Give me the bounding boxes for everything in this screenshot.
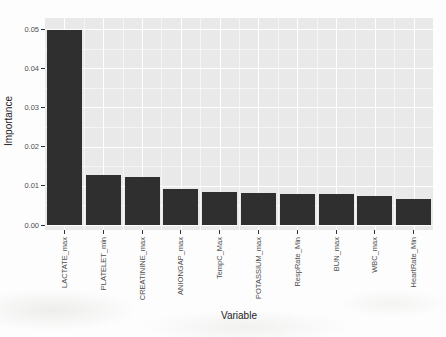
x-tick-mark: [336, 230, 337, 234]
x-tick-mark: [64, 230, 65, 234]
plot-panel: [45, 18, 433, 230]
x-tick-mark: [103, 230, 104, 234]
bar-POTASSIUM_max: [241, 193, 276, 225]
y-tick-label: 0.00: [0, 220, 39, 231]
x-tick-label: WBC_max: [369, 237, 380, 317]
x-tick-mark: [374, 230, 375, 234]
gridline-minor-vertical: [317, 18, 318, 230]
x-tick-label: LACTATE_max: [59, 237, 70, 317]
gridline-minor-vertical: [278, 18, 279, 230]
bar-BUN_max: [319, 194, 354, 225]
x-tick-label: ANIONGAP_max: [175, 237, 186, 317]
variable-importance-bar-chart: Importance Variable 0.000.010.020.030.04…: [0, 0, 446, 337]
y-tick-label: 0.04: [0, 63, 39, 74]
x-tick-label: RespRate_Min: [292, 237, 303, 317]
x-tick-label: POTASSIUM_max: [253, 237, 264, 317]
x-tick-mark: [142, 230, 143, 234]
y-tick-mark: [41, 107, 45, 108]
x-tick-label: HeartRate_Min: [408, 237, 419, 317]
y-tick-label: 0.05: [0, 24, 39, 35]
bar-ANIONGAP_max: [163, 189, 198, 225]
y-tick-mark: [41, 29, 45, 30]
bar-LACTATE_max: [47, 30, 82, 225]
bar-HeartRate_Min: [396, 199, 431, 225]
y-tick-mark: [41, 185, 45, 186]
x-tick-mark: [297, 230, 298, 234]
bar-PLATELET_min: [86, 175, 121, 225]
gridline-minor-vertical: [123, 18, 124, 230]
x-tick-label: CREATININE_max: [137, 237, 148, 317]
x-tick-label: PLATELET_min: [98, 237, 109, 317]
gridline-minor-vertical: [161, 18, 162, 230]
bar-WBC_max: [357, 196, 392, 225]
y-tick-mark: [41, 68, 45, 69]
bar-CREATININE_max: [125, 177, 160, 225]
x-tick-mark: [219, 230, 220, 234]
gridline-minor-vertical: [394, 18, 395, 230]
gridline-minor-vertical: [200, 18, 201, 230]
x-tick-mark: [413, 230, 414, 234]
x-tick-label: BUN_max: [331, 237, 342, 317]
gridline-minor-vertical: [84, 18, 85, 230]
y-tick-label: 0.01: [0, 180, 39, 191]
x-tick-mark: [258, 230, 259, 234]
bar-RespRate_Min: [280, 194, 315, 225]
x-tick-label: TempC_Max: [214, 237, 225, 317]
gridline-minor-vertical: [355, 18, 356, 230]
bar-TempC_Max: [202, 192, 237, 225]
x-tick-mark: [180, 230, 181, 234]
gridline-minor-vertical: [239, 18, 240, 230]
y-tick-mark: [41, 146, 45, 147]
y-tick-label: 0.02: [0, 141, 39, 152]
y-tick-label: 0.03: [0, 102, 39, 113]
y-tick-mark: [41, 225, 45, 226]
